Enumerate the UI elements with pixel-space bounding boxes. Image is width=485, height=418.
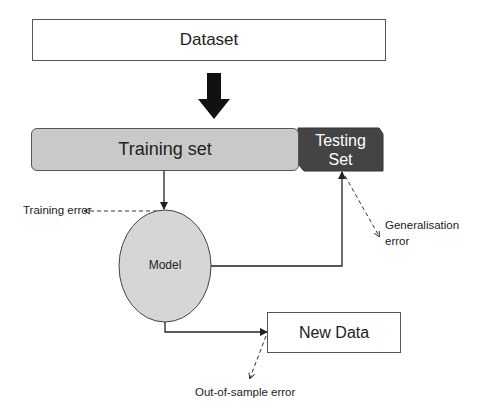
model-to-newdata-arrow xyxy=(165,322,267,332)
training-set-label: Training set xyxy=(118,139,211,160)
new-data-label: New Data xyxy=(299,324,369,342)
new-data-node: New Data xyxy=(267,312,401,353)
dataset-label: Dataset xyxy=(180,30,239,50)
out-of-sample-error-label: Out-of-sample error xyxy=(195,386,295,398)
big-down-arrow-icon xyxy=(198,73,230,119)
training-error-label: Training error xyxy=(23,204,92,216)
generalisation-error-label: Generalisation error xyxy=(385,217,459,249)
dataset-node: Dataset xyxy=(32,19,386,61)
testing-set-label-line1: Testing xyxy=(315,131,366,150)
training-set-node: Training set xyxy=(31,128,299,171)
generalisation-error-line1: Generalisation xyxy=(385,217,459,233)
model-to-testing-arrow xyxy=(211,172,342,266)
generalisation-error-line2: error xyxy=(385,233,459,249)
generalisation-error-arrow xyxy=(345,176,379,236)
testing-set-label-line2: Set xyxy=(328,150,352,169)
testing-set-node: Testing Set xyxy=(298,128,383,171)
out-of-sample-error-arrow xyxy=(250,336,266,378)
model-label: Model xyxy=(119,258,211,272)
